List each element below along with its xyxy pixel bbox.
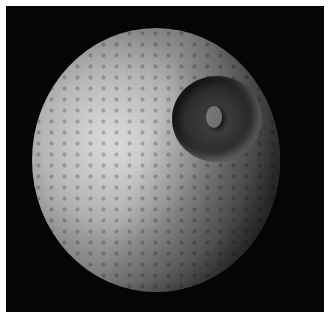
moon xyxy=(32,28,280,292)
space-background xyxy=(6,6,324,312)
shadow-terminator xyxy=(32,28,280,292)
